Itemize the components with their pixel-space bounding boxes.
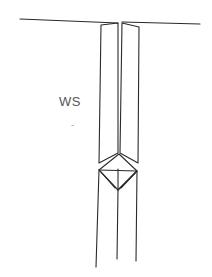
vertical-line-middle <box>117 190 118 259</box>
ws-label: WS <box>59 94 81 109</box>
diamond-inner-diag-right <box>121 173 135 188</box>
small-mark: - <box>71 120 75 130</box>
vertical-line-left <box>96 170 99 267</box>
top-surface-line-right <box>122 22 200 24</box>
joint-drawing <box>0 0 212 277</box>
vertical-line-right <box>136 171 137 261</box>
diamond-inner-diag-left <box>101 172 115 188</box>
right-panel-outline <box>120 23 139 163</box>
left-panel-outline <box>99 23 118 163</box>
top-surface-line <box>20 19 118 23</box>
diagram-canvas: WS - <box>0 0 212 277</box>
